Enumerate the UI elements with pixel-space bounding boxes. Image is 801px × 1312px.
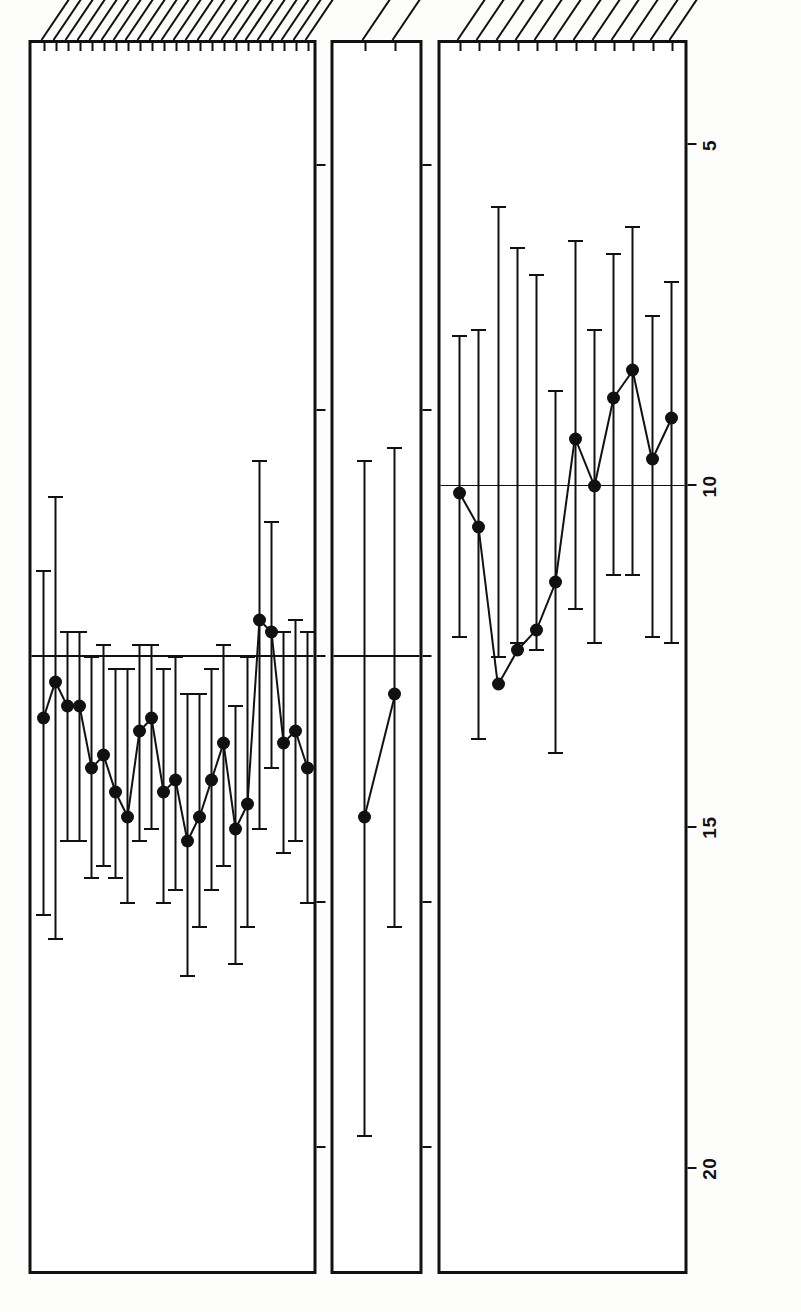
category-leader-maca-quotients-1 [391,0,451,41]
x-tick-wisc-scaled-scores-3 [687,143,696,145]
category-tick-t-scores-3 [79,40,81,51]
category-tick-wisc-scaled-scores-4 [536,40,538,51]
error-bar-wisc-scaled-scores-11 [670,282,672,644]
data-point-t-scores-16 [229,822,242,835]
error-bar-wisc-scaled-scores-1 [477,330,479,739]
connector-maca-quotients-0 [363,694,396,817]
error-bar-t-scores-6 [114,669,116,878]
error-bar-wisc-scaled-scores-0 [458,336,460,636]
error-bar-t-scores-16 [234,706,236,964]
error-cap-low-t-scores-15 [216,865,231,867]
category-leader-wisc-scaled-scores-10 [649,0,709,41]
data-point-t-scores-1 [49,675,62,688]
category-tick-t-scores-12 [187,40,189,51]
error-bar-t-scores-18 [258,461,260,829]
data-point-t-scores-11 [169,773,182,786]
connector-wisc-scaled-scores-4 [535,582,556,630]
connector-wisc-scaled-scores-0 [458,493,479,528]
connector-t-scores-4 [90,755,103,769]
error-bar-t-scores-2 [66,632,68,841]
connector-t-scores-21 [294,730,308,767]
error-cap-high-t-scores-14 [204,668,219,670]
error-bar-t-scores-14 [210,669,212,890]
x-tick-maca-quotients-1 [422,901,431,903]
error-cap-high-t-scores-12 [180,693,195,695]
figure-page: 7060504030Dyn DNFoot DNFin DNStd DNMaz D… [0,0,801,1312]
data-point-wisc-scaled-scores-5 [549,575,562,588]
error-cap-low-t-scores-19 [264,767,279,769]
error-cap-low-wisc-scaled-scores-5 [548,752,563,754]
x-tick-maca-quotients-0 [422,1146,431,1148]
category-tick-wisc-scaled-scores-8 [613,40,615,51]
error-cap-high-wisc-scaled-scores-11 [663,281,678,283]
error-cap-low-maca-quotients-0 [356,1135,371,1137]
error-cap-low-t-scores-17 [240,926,255,928]
error-bar-t-scores-9 [150,645,152,829]
category-tick-t-scores-16 [235,40,237,51]
x-tick-t-scores-0 [316,1146,325,1148]
connector-wisc-scaled-scores-10 [651,418,672,460]
connector-t-scores-12 [186,816,200,841]
error-cap-high-t-scores-8 [132,644,147,646]
reference-line-maca-quotients [333,656,419,658]
error-cap-low-t-scores-9 [144,828,159,830]
error-cap-high-wisc-scaled-scores-10 [644,315,659,317]
error-cap-low-t-scores-3 [72,840,87,842]
data-point-t-scores-6 [109,786,122,799]
error-cap-high-wisc-scaled-scores-6 [567,240,582,242]
plot-panel-maca-quotients [330,40,422,1274]
connector-t-scores-16 [234,804,248,829]
category-tick-wisc-scaled-scores-6 [575,40,577,51]
error-cap-high-t-scores-0 [36,570,51,572]
error-bar-t-scores-4 [90,657,92,878]
error-bar-wisc-scaled-scores-5 [554,391,556,753]
error-cap-low-wisc-scaled-scores-2 [490,656,505,658]
category-leader-t-scores-21 [292,0,352,41]
category-tick-wisc-scaled-scores-11 [671,40,673,51]
error-cap-low-t-scores-18 [252,828,267,830]
connector-wisc-scaled-scores-9 [631,370,652,459]
connector-t-scores-0 [42,681,56,718]
error-cap-high-wisc-scaled-scores-9 [625,226,640,228]
connector-wisc-scaled-scores-8 [612,370,633,398]
x-tick-t-scores-1 [316,901,325,903]
error-cap-high-wisc-scaled-scores-2 [490,206,505,208]
error-cap-low-wisc-scaled-scores-1 [471,738,486,740]
error-cap-high-maca-quotients-0 [356,460,371,462]
data-point-wisc-scaled-scores-11 [664,412,677,425]
category-tick-wisc-scaled-scores-10 [652,40,654,51]
category-tick-t-scores-10 [163,40,165,51]
error-cap-high-t-scores-2 [60,631,75,633]
category-tick-t-scores-13 [199,40,201,51]
error-bar-t-scores-1 [54,497,56,939]
data-point-wisc-scaled-scores-10 [645,453,658,466]
category-tick-maca-quotients-0 [364,40,366,51]
data-point-t-scores-13 [193,810,206,823]
data-point-t-scores-5 [97,749,110,762]
error-cap-low-wisc-scaled-scores-3 [509,642,524,644]
data-point-t-scores-3 [73,700,86,713]
category-leader-wisc-scaled-scores-11 [668,0,728,41]
error-cap-high-wisc-scaled-scores-1 [471,329,486,331]
error-cap-low-t-scores-14 [204,889,219,891]
x-tick-wisc-scaled-scores-2 [687,484,696,486]
error-cap-low-t-scores-6 [108,877,123,879]
error-cap-low-wisc-scaled-scores-7 [586,642,601,644]
error-bar-t-scores-12 [186,694,188,976]
error-bar-t-scores-0 [42,571,44,915]
connector-t-scores-8 [138,718,151,732]
connector-t-scores-10 [162,779,175,793]
data-point-maca-quotients-1 [388,687,401,700]
connector-t-scores-19 [270,632,284,743]
error-cap-low-maca-quotients-1 [387,926,402,928]
category-tick-wisc-scaled-scores-1 [478,40,480,51]
data-point-wisc-scaled-scores-4 [530,623,543,636]
category-tick-wisc-scaled-scores-0 [459,40,461,51]
error-bar-wisc-scaled-scores-6 [574,241,576,609]
error-cap-high-t-scores-19 [264,521,279,523]
data-point-t-scores-4 [85,761,98,774]
data-point-t-scores-2 [61,700,74,713]
category-tick-maca-quotients-1 [394,40,396,51]
error-bar-t-scores-11 [174,657,176,890]
category-tick-t-scores-4 [91,40,93,51]
